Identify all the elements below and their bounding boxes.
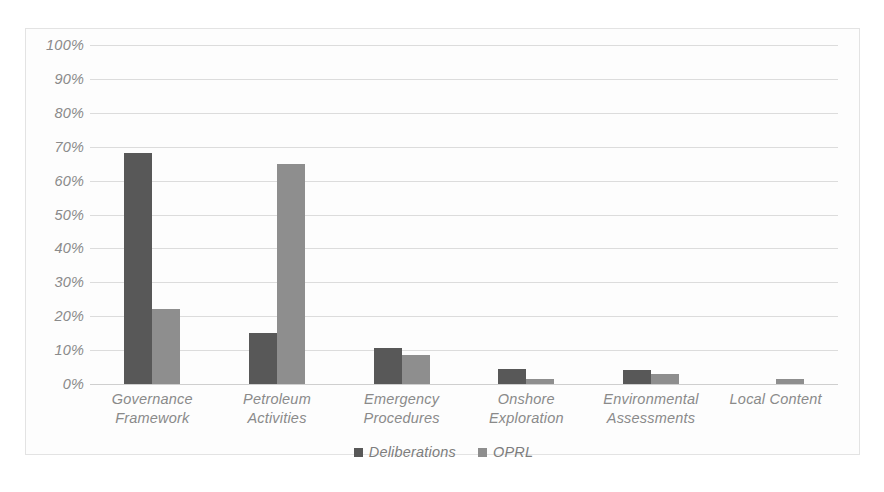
x-axis: GovernanceFrameworkPetroleumActivitiesEm…	[90, 390, 838, 442]
bar-group	[589, 45, 714, 384]
gridline-0	[90, 384, 838, 385]
legend-item[interactable]: OPRL	[478, 444, 533, 460]
bar[interactable]	[651, 374, 679, 384]
y-axis-tick-label: 20%	[54, 308, 84, 324]
bar[interactable]	[776, 379, 804, 384]
y-axis-tick-label: 50%	[54, 207, 84, 223]
x-axis-label-line: Onshore	[464, 390, 589, 409]
x-axis-label-line: Exploration	[464, 409, 589, 428]
x-axis-category-label: EnvironmentalAssessments	[589, 390, 714, 428]
x-axis-label-line: Emergency	[339, 390, 464, 409]
x-axis-label-line: Environmental	[589, 390, 714, 409]
bar[interactable]	[124, 153, 152, 384]
bar[interactable]	[277, 164, 305, 384]
y-axis-tick-label: 80%	[54, 105, 84, 121]
legend-swatch-icon	[478, 448, 487, 457]
bar-group	[215, 45, 340, 384]
y-axis-tick-label: 10%	[54, 342, 84, 358]
legend-item[interactable]: Deliberations	[354, 444, 456, 460]
bar-group	[339, 45, 464, 384]
x-axis-label-line: Governance	[90, 390, 215, 409]
y-axis-tick-label: 0%	[63, 376, 84, 392]
x-axis-label-line: Activities	[215, 409, 340, 428]
bar-group	[90, 45, 215, 384]
y-axis-tick-label: 30%	[54, 274, 84, 290]
x-axis-label-line: Procedures	[339, 409, 464, 428]
bar-group	[713, 45, 838, 384]
y-axis-tick-label: 90%	[54, 71, 84, 87]
y-axis-tick-label: 70%	[54, 139, 84, 155]
x-axis-label-line: Assessments	[589, 409, 714, 428]
legend-swatch-icon	[354, 448, 363, 457]
chart-legend: DeliberationsOPRL	[26, 444, 861, 460]
bar-group	[464, 45, 589, 384]
x-axis-category-label: PetroleumActivities	[215, 390, 340, 428]
y-axis-tick-label: 60%	[54, 173, 84, 189]
y-axis-tick-label: 40%	[54, 240, 84, 256]
legend-label: Deliberations	[369, 444, 456, 460]
y-axis-tick-label: 100%	[46, 37, 84, 53]
x-axis-category-label: GovernanceFramework	[90, 390, 215, 428]
bar[interactable]	[623, 370, 651, 384]
y-axis: 100%90%80%70%60%50%40%30%20%10%0%	[26, 45, 84, 384]
x-axis-category-label: EmergencyProcedures	[339, 390, 464, 428]
x-axis-label-line: Framework	[90, 409, 215, 428]
bar[interactable]	[526, 379, 554, 384]
bar[interactable]	[374, 348, 402, 384]
x-axis-label-line: Petroleum	[215, 390, 340, 409]
x-axis-label-line: Local Content	[713, 390, 838, 409]
bar[interactable]	[498, 369, 526, 384]
bars-layer	[90, 45, 838, 384]
x-axis-category-label: Local Content	[713, 390, 838, 409]
bar[interactable]	[152, 309, 180, 384]
bar[interactable]	[402, 355, 430, 384]
x-axis-category-label: OnshoreExploration	[464, 390, 589, 428]
chart-container: 100%90%80%70%60%50%40%30%20%10%0% Govern…	[25, 28, 860, 455]
legend-label: OPRL	[493, 444, 533, 460]
bar[interactable]	[249, 333, 277, 384]
